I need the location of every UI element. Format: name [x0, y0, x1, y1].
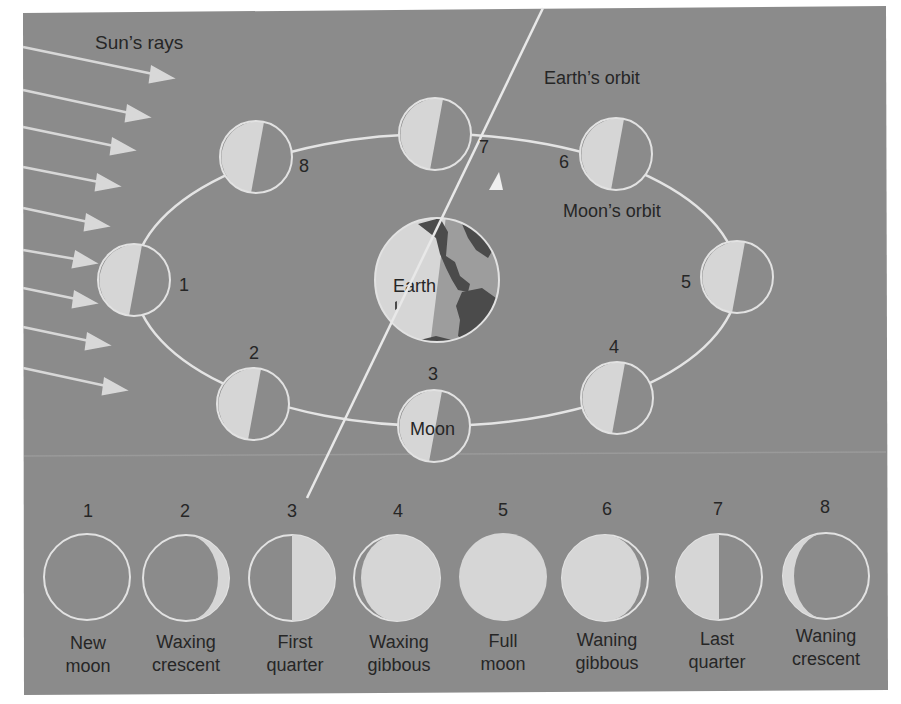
phase-number-2: 2	[180, 501, 190, 521]
phase-name-2-line1: Waxing	[156, 632, 215, 652]
moons-orbit-label: Moon’s orbit	[563, 201, 661, 221]
orbit-moon-5	[701, 241, 773, 313]
phase-waxing-gibbous	[354, 535, 440, 621]
orbit-number-3: 3	[428, 364, 438, 384]
moon-label: Moon	[410, 419, 455, 439]
phase-new-moon	[44, 534, 130, 620]
sun-rays-label: Sun’s rays	[95, 32, 183, 53]
phase-number-6: 6	[602, 499, 612, 519]
earths-orbit-label: Earth’s orbit	[544, 68, 640, 88]
earth-label: Earth	[393, 276, 436, 296]
phase-name-5-line1: Full	[488, 631, 517, 651]
phase-name-5-line2: moon	[480, 654, 525, 674]
orbit-number-6: 6	[559, 152, 569, 172]
phase-number-3: 3	[287, 501, 297, 521]
phase-name-1-line1: New	[70, 633, 107, 653]
phase-number-1: 1	[83, 501, 93, 521]
phase-name-7-line2: quarter	[688, 652, 745, 672]
phase-first-quarter	[249, 535, 335, 621]
orbit-moon-8	[220, 121, 292, 193]
phase-name-6-line1: Waning	[577, 630, 637, 650]
phase-waning-gibbous	[562, 535, 648, 621]
phase-name-4-line2: gibbous	[367, 655, 430, 675]
orbit-moon-4	[581, 362, 653, 434]
phase-name-3-line1: First	[278, 632, 313, 652]
orbit-moon-7	[399, 98, 471, 170]
phase-name-8-line1: Waning	[796, 626, 856, 646]
orbit-moon-6	[580, 118, 652, 190]
phase-name-8-line2: crescent	[792, 649, 860, 669]
phase-name-4-line1: Waxing	[369, 632, 428, 652]
orbit-number-1: 1	[179, 275, 189, 295]
orbit-moon-1	[98, 244, 170, 316]
phase-number-5: 5	[498, 500, 508, 520]
moon-phases-diagram: Sun’s rays Earth Earth’s orbit Moon’s or…	[0, 0, 901, 704]
phase-waning-crescent	[783, 533, 869, 619]
phase-last-quarter	[676, 534, 762, 620]
phase-name-1-line2: moon	[65, 656, 110, 676]
orbit-number-4: 4	[609, 337, 619, 357]
orbit-number-5: 5	[681, 272, 691, 292]
phase-number-8: 8	[820, 497, 830, 517]
phase-name-6-line2: gibbous	[575, 653, 638, 673]
orbit-number-8: 8	[299, 156, 309, 176]
orbit-number-7: 7	[479, 137, 489, 157]
phase-full-moon	[459, 533, 547, 621]
phase-name-2-line2: crescent	[152, 655, 220, 675]
phase-number-7: 7	[713, 499, 723, 519]
phase-name-3-line2: quarter	[266, 655, 323, 675]
phase-number-4: 4	[393, 501, 403, 521]
orbit-number-2: 2	[249, 343, 259, 363]
orbit-moon-2	[217, 368, 289, 440]
phase-name-7-line1: Last	[700, 629, 734, 649]
phase-waxing-crescent	[143, 535, 229, 621]
